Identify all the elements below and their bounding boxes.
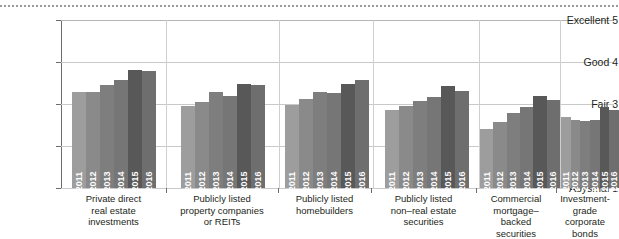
bar[interactable]: 2016: [251, 85, 265, 188]
bar[interactable]: 2011: [181, 106, 195, 188]
category-label-6: Investment-grade corporate bonds: [556, 193, 614, 239]
bar-groups: 2011201220132014201520162011201220132014…: [61, 20, 614, 188]
bar[interactable]: 2011: [480, 129, 493, 188]
bar[interactable]: 2014: [520, 107, 533, 188]
bar[interactable]: 2011: [561, 117, 571, 188]
bar[interactable]: 2014: [327, 93, 341, 188]
bar[interactable]: 2014: [223, 96, 237, 188]
gridline-1: [61, 188, 614, 189]
category-label-3: Publicly listed homebuilders: [278, 193, 371, 239]
category-labels: Private direct real estate investmentsPu…: [61, 193, 614, 239]
bar[interactable]: 2014: [114, 80, 128, 188]
bar-group-6: 201120122013201420152016: [560, 20, 619, 188]
bar[interactable]: 2012: [399, 106, 413, 188]
bar-group-3: 201120122013201420152016: [279, 20, 373, 188]
category-label-5: Commercial mortgage–backed securities: [476, 193, 556, 239]
bar[interactable]: 2012: [493, 122, 506, 188]
bar[interactable]: 2011: [385, 110, 399, 188]
bar[interactable]: 2015: [441, 86, 455, 188]
bar[interactable]: 2015: [533, 96, 546, 188]
bar[interactable]: 2012: [571, 120, 581, 188]
bar[interactable]: 2016: [455, 91, 469, 188]
bar[interactable]: 2016: [142, 71, 156, 188]
category-label-2: Publicly listed property companies or RE…: [166, 193, 278, 239]
bar[interactable]: 2012: [86, 92, 100, 188]
category-label-1: Private direct real estate investments: [61, 193, 166, 239]
bar[interactable]: 2016: [547, 100, 560, 188]
bar-group-1: 201120122013201420152016: [61, 20, 166, 188]
bar[interactable]: 2011: [285, 105, 299, 188]
bar[interactable]: 2016: [355, 80, 369, 188]
bar[interactable]: 2013: [580, 121, 590, 188]
category-label-4: Publicly listed non–real estate securiti…: [371, 193, 476, 239]
bar[interactable]: 2013: [413, 101, 427, 188]
bar[interactable]: 2011: [72, 92, 86, 188]
bar[interactable]: 2015: [237, 84, 251, 188]
top-dotted-divider: [0, 5, 618, 7]
bar[interactable]: 2013: [100, 85, 114, 188]
bar[interactable]: 2015: [128, 70, 142, 188]
bar[interactable]: 2016: [609, 110, 619, 188]
bar[interactable]: 2013: [313, 92, 327, 188]
bar[interactable]: 2014: [427, 97, 441, 188]
bar-group-4: 201120122013201420152016: [373, 20, 479, 188]
y-tick-1: [56, 188, 61, 189]
bar-group-2: 201120122013201420152016: [166, 20, 279, 188]
bar[interactable]: 2012: [195, 102, 209, 188]
bar[interactable]: 2013: [209, 92, 223, 188]
bar[interactable]: 2014: [590, 120, 600, 188]
bar[interactable]: 2015: [341, 84, 355, 188]
bar[interactable]: 2015: [600, 107, 610, 188]
bar[interactable]: 2012: [299, 99, 313, 188]
bar[interactable]: 2013: [507, 113, 520, 188]
bar-group-5: 201120122013201420152016: [479, 20, 560, 188]
